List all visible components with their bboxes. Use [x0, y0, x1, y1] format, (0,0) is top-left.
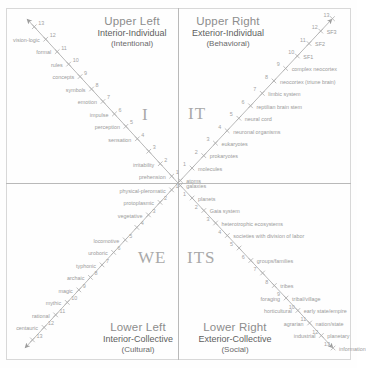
axis-point-number: 2	[164, 195, 167, 201]
axis-point-label: prehension	[139, 174, 166, 180]
quadrant-dimension-label: Exterior-Individual	[182, 28, 274, 39]
axis-point-number: 4	[141, 132, 144, 138]
axis-point-number: 11	[61, 45, 67, 51]
axis-point-number: 13	[36, 333, 42, 339]
axis-point-label: rational	[32, 313, 50, 319]
axis-point-label: vegetative	[118, 213, 143, 219]
axis-point-number: 10	[73, 57, 79, 63]
axis-point-label: irritability	[133, 162, 154, 168]
axis-point-label: Gaia system	[210, 208, 240, 214]
frame-left-border	[6, 8, 7, 360]
axis-point-number: 13	[323, 12, 329, 18]
axis-point-number: 11	[60, 308, 66, 314]
quadrant-dimension-label: Exterior-Collective	[180, 334, 290, 345]
axis-point-label: foraging	[261, 296, 280, 302]
axis-point-number: 2	[164, 157, 167, 163]
axis-point-number: 6	[242, 99, 245, 105]
quadrant-aspect-label: (Behavioral)	[182, 39, 274, 49]
axis-point-number: 2	[195, 204, 198, 210]
quadrant-position-label: Upper Left	[86, 14, 178, 28]
axis-point-label: SF2	[315, 41, 325, 47]
axis-point-label: agrarian	[284, 321, 304, 327]
axis-point-label: uroboric	[88, 250, 107, 256]
axis-point-number: 1	[183, 161, 186, 167]
axis-point-number: 6	[242, 254, 245, 260]
axis-point-label: information	[339, 346, 366, 352]
pronoun-lower-right: ITS	[187, 248, 216, 268]
quadrant-heading-lower-left: Lower Left Interior-Collective (Cultural…	[86, 320, 190, 355]
axis-point-number: 4	[141, 220, 144, 226]
axis-point-label: emotion	[78, 99, 97, 105]
axis-point-label: mythic	[46, 300, 62, 306]
axis-point-label: SF1	[303, 54, 313, 60]
axis-point-label: prokaryotes	[210, 153, 238, 159]
axis-point-label: magic	[58, 288, 72, 294]
axis-point-label: physical-pleromatic	[119, 188, 165, 194]
quadrant-heading-lower-right: Lower Right Exterior-Collective (Social)	[180, 320, 290, 355]
frame-right-border	[350, 8, 351, 360]
axis-point-number: 7	[107, 94, 110, 100]
axis-point-label: concepts	[53, 74, 75, 80]
quadrant-position-label: Lower Left	[86, 320, 190, 334]
axis-point-label: impulse	[90, 112, 109, 118]
axis-point-label: formal	[36, 49, 51, 55]
axis-point-label-secondary: tribal/village	[292, 296, 320, 302]
axis-point-number: 4	[218, 229, 221, 235]
axis-point-label-secondary: nation/state	[316, 321, 344, 327]
axis-point-label: perception	[95, 124, 120, 130]
quadrant-dimension-label: Interior-Individual	[86, 28, 178, 39]
axis-point-label: industrial	[294, 333, 316, 339]
axis-point-number: 3	[153, 144, 156, 150]
axis-point-label: planets	[198, 196, 215, 202]
axis-point-number: 8	[94, 270, 97, 276]
axis-point-number: 6	[118, 107, 121, 113]
axis-point-label: eukaryotes	[221, 141, 247, 147]
axis-point-label: galaxies	[186, 183, 206, 189]
axis-point-label: societies with division of labor	[233, 233, 304, 239]
axis-point-label: neuronal organisms	[233, 129, 280, 135]
quadrant-position-label: Lower Right	[180, 320, 290, 334]
quadrant-aspect-label: (Social)	[180, 345, 290, 355]
axis-point-label: reptilian brain stem	[257, 104, 303, 110]
axis-point-number: 2	[195, 149, 198, 155]
pronoun-lower-left: WE	[138, 248, 166, 268]
axis-point-label: groups/families	[257, 258, 293, 264]
quadrant-heading-upper-right: Upper Right Exterior-Individual (Behavio…	[182, 14, 274, 49]
axis-point-number: 13	[324, 341, 330, 347]
axis-point-label: neural cord	[245, 116, 272, 122]
axis-point-number: 9	[83, 283, 86, 289]
axis-point-number: 12	[312, 24, 318, 30]
axis-point-number: 5	[230, 111, 233, 117]
axis-point-number: 7	[254, 266, 257, 272]
axis-point-label: protoplasmic	[123, 200, 154, 206]
axis-point-label: archaic	[67, 275, 84, 281]
axis-point-number: 5	[130, 119, 133, 125]
axis-point-number: 12	[48, 320, 54, 326]
axis-point-number: 1	[176, 169, 179, 175]
axis-point-label: tribes	[280, 283, 293, 289]
pronoun-upper-left: I	[142, 105, 149, 125]
axis-point-label: heterotrophic ecosystems	[222, 221, 283, 227]
axis-point-number: 3	[152, 208, 155, 214]
axis-point-number: 9	[84, 70, 87, 76]
axis-point-label: neocortex (triune brain)	[280, 79, 336, 85]
axis-point-number: 13	[38, 20, 44, 26]
quadrant-position-label: Upper Right	[182, 14, 274, 28]
quadrant-aspect-label: (Cultural)	[86, 345, 190, 355]
pronoun-upper-right: IT	[188, 104, 206, 124]
axis-point-number: 12	[50, 32, 56, 38]
axis-point-label: vision-logic	[13, 37, 40, 43]
axis-point-number: 5	[129, 233, 132, 239]
axis-point-number: 3	[206, 136, 209, 142]
quadrant-dimension-label: Interior-Collective	[86, 334, 190, 345]
axis-point-label-secondary: planetary	[327, 333, 349, 339]
axis-point-number: 1	[176, 183, 179, 189]
axis-point-number: 3	[207, 216, 210, 222]
axis-point-label: symbols	[66, 87, 86, 93]
axis-point-number: 10	[71, 295, 77, 301]
axis-point-number: 8	[265, 74, 268, 80]
axis-point-label: locomotive	[93, 238, 119, 244]
axis-point-number: 5	[230, 241, 233, 247]
axis-point-number: 7	[253, 86, 256, 92]
quadrant-heading-upper-left: Upper Left Interior-Individual (Intentio…	[86, 14, 178, 49]
